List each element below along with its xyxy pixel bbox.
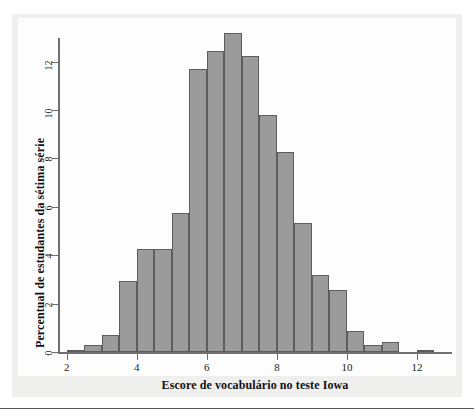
histogram-bar: [347, 331, 365, 352]
histogram-bar: [137, 249, 155, 352]
histogram-bar: [312, 275, 330, 352]
histogram-bar: [154, 249, 172, 352]
y-axis-title: Percentual de estudantes da sétima série: [33, 138, 48, 348]
page-divider-rule: [0, 408, 474, 409]
x-axis-tick: [207, 354, 208, 360]
histogram-bar: [102, 335, 120, 352]
x-axis-tick-label: 2: [55, 361, 79, 373]
x-axis-tick: [347, 354, 348, 360]
histogram-bar: [364, 345, 382, 352]
histogram-bar: [172, 213, 190, 352]
x-axis-tick-label: 4: [125, 361, 149, 373]
histogram-bar: [242, 56, 260, 352]
histogram-bar: [417, 350, 435, 352]
scanned-page: 24681012024681012 Escore de vocabulário …: [0, 0, 474, 418]
histogram-bar: [277, 152, 295, 352]
y-axis-tick-label: 10: [43, 109, 54, 139]
x-axis-line: [58, 352, 452, 354]
histogram-bar: [224, 33, 242, 352]
y-axis-line: [58, 38, 60, 353]
x-axis-title: Escore de vocabulário no teste Iowa: [58, 378, 452, 393]
y-axis-tick-label: 0: [43, 351, 54, 381]
histogram-bar: [259, 115, 277, 352]
histogram-bar: [207, 51, 225, 352]
histogram-bar: [189, 69, 207, 352]
histogram-bar: [294, 223, 312, 352]
x-axis-tick-label: 6: [195, 361, 219, 373]
histogram-bar: [119, 281, 137, 352]
x-axis-tick-label: 12: [405, 361, 429, 373]
histogram-bar: [84, 345, 102, 352]
x-axis-tick: [417, 354, 418, 360]
histogram-bar: [67, 350, 85, 352]
x-axis-tick-label: 10: [335, 361, 359, 373]
y-axis-tick-label: 12: [43, 60, 54, 90]
x-axis-tick-label: 8: [265, 361, 289, 373]
histogram-bar: [329, 290, 347, 352]
histogram-chart: 24681012024681012 Escore de vocabulário …: [0, 0, 474, 418]
x-axis-tick: [277, 354, 278, 360]
x-axis-tick: [137, 354, 138, 360]
histogram-bar: [382, 342, 400, 352]
x-axis-tick: [67, 354, 68, 360]
